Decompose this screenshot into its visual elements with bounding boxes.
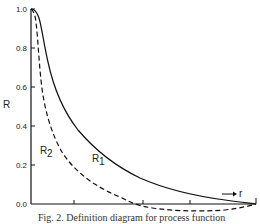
y-tick-labels: 1.0 0.8 0.6 0.4 0.2 0.0	[16, 5, 28, 209]
arrow-head-icon	[233, 192, 237, 197]
y-tick-label: 1.0	[16, 5, 28, 14]
series-r2-label: R 2	[40, 145, 53, 159]
svg-text:1: 1	[99, 156, 105, 167]
figure-caption: Fig. 2. Definition diagram for process f…	[38, 212, 225, 223]
y-tick-label: 0.6	[16, 83, 28, 92]
series-r1-label: R 1	[92, 153, 105, 167]
chart-canvas: 1.0 0.8 0.6 0.4 0.2 0.0 R R 2 R 1 r	[0, 0, 260, 224]
series-r1-line	[31, 9, 256, 204]
x-axis-label-arrow: r	[222, 188, 243, 199]
y-axis-label: R	[3, 99, 10, 110]
y-tick-label: 0.8	[16, 44, 28, 53]
svg-text:2: 2	[47, 148, 53, 159]
y-tick-label: 0.2	[16, 161, 28, 170]
x-axis-label: r	[239, 188, 243, 199]
y-tick-label: 0.0	[16, 200, 28, 209]
y-tick-label: 0.4	[16, 122, 28, 131]
